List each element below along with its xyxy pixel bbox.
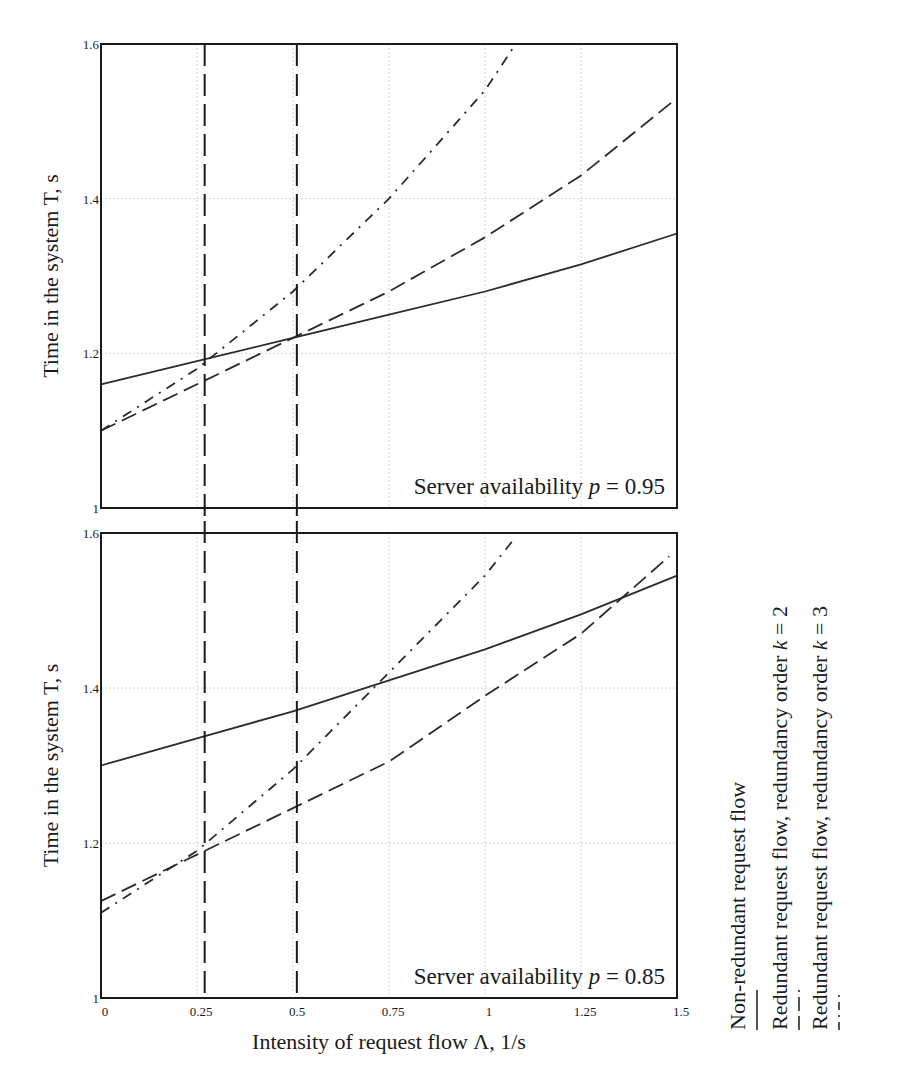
x-tick-label: 0.75	[382, 1004, 405, 1019]
legend-item-non-redundant: Non-redundant request flow	[725, 782, 757, 1030]
x-axis-label: Intensity of request flow Λ, 1/s	[252, 1029, 526, 1054]
vertical-marker-lines	[205, 521, 297, 998]
x-tick-label: 1.25	[574, 1004, 597, 1019]
plot-panel-bottom: 11.21.41.6 00.250.50.7511.251.5 Server a…	[38, 521, 689, 1019]
y-tick-labels: 11.21.41.6	[83, 526, 100, 1006]
legend-label: Redundant request flow, redundancy order…	[767, 606, 792, 1030]
legend-item-k3: Redundant request flow, redundancy order…	[807, 606, 839, 1030]
legend-label: Redundant request flow, redundancy order…	[807, 606, 832, 1030]
vertical-marker-lines	[205, 44, 297, 520]
panel-annotation: Server availability p = 0.85	[414, 964, 665, 989]
x-tick-label: 0.25	[190, 1004, 213, 1019]
legend-label: Non-redundant request flow	[725, 782, 750, 1030]
y-tick-labels: 11.21.41.6	[83, 37, 100, 516]
x-tick-label: 0.5	[289, 1004, 305, 1019]
series-line-dash-dot	[101, 537, 516, 913]
y-axis-label: Time in the system T, s	[38, 174, 63, 378]
x-tick-label: 1	[486, 1004, 493, 1019]
panel-annotation: Server availability p = 0.95	[414, 474, 665, 499]
grid-lines	[101, 533, 677, 998]
x-tick-labels: 00.250.50.7511.251.5	[102, 1004, 689, 1019]
y-tick-label: 1.4	[83, 192, 100, 207]
y-tick-label: 1	[93, 501, 100, 516]
y-tick-label: 1.2	[83, 836, 99, 851]
x-tick-label: 1.5	[673, 1004, 689, 1019]
y-tick-label: 1	[93, 991, 100, 1006]
y-axis-label: Time in the system T, s	[38, 664, 63, 868]
series-line-dashed	[101, 556, 669, 901]
y-tick-label: 1.6	[83, 526, 100, 541]
grid-lines	[101, 44, 677, 508]
chart-figure: 11.21.41.6 Server availability p = 0.95 …	[0, 0, 905, 1084]
legend-item-k2: Redundant request flow, redundancy order…	[767, 606, 799, 1030]
x-tick-label: 0	[102, 1004, 109, 1019]
legend: Non-redundant request flow Redundant req…	[725, 606, 839, 1030]
plot-panel-top: 11.21.41.6 Server availability p = 0.95 …	[38, 37, 677, 520]
y-tick-label: 1.4	[83, 681, 100, 696]
y-tick-label: 1.2	[83, 346, 99, 361]
y-tick-label: 1.6	[83, 37, 100, 52]
series-line-dash-dot	[101, 44, 516, 431]
